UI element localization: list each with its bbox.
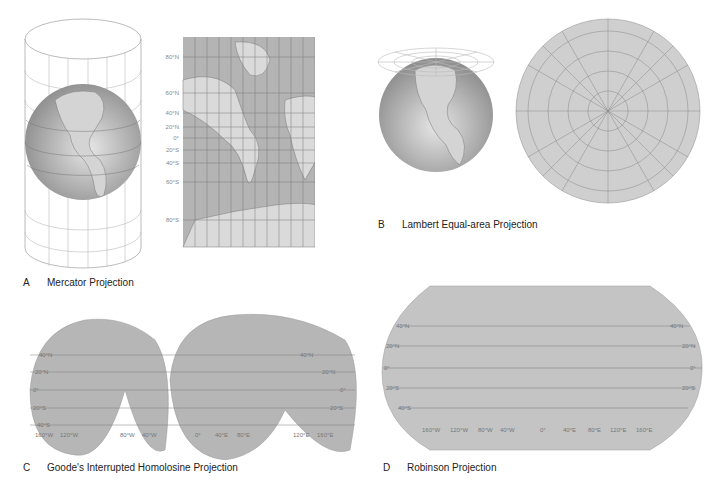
svg-text:40°N: 40°N — [39, 352, 52, 358]
svg-text:160°E: 160°E — [317, 432, 333, 438]
panel-mercator: 80°N 60°N 40°N 20°N 0° 20°S 40°S 60°S 80… — [0, 0, 360, 300]
svg-text:0°: 0° — [33, 387, 39, 393]
panel-lambert — [360, 0, 721, 240]
lat-label: 80°N — [166, 54, 179, 60]
svg-text:160°W: 160°W — [422, 427, 440, 433]
svg-text:20°N: 20°N — [322, 369, 335, 375]
caption-a: AMercator Projection — [23, 277, 134, 288]
caption-c: CGoode's Interrupted Homolosine Projecti… — [23, 462, 238, 473]
goode-map: 40°N 20°N 0° 20°S 40°S 40°N 20°N 0° 20°S… — [25, 310, 365, 460]
lat-label: 20°N — [166, 124, 179, 130]
svg-text:40°N: 40°N — [670, 323, 683, 329]
mercator-map: 80°N 60°N 40°N 20°N 0° 20°S 40°S 60°S 80… — [155, 30, 315, 280]
svg-text:80°E: 80°E — [237, 432, 250, 438]
lat-label: 20°S — [166, 147, 179, 153]
lat-label: 0° — [173, 135, 179, 141]
svg-text:0°: 0° — [540, 427, 546, 433]
svg-text:120°W: 120°W — [60, 432, 78, 438]
svg-text:40°W: 40°W — [142, 432, 157, 438]
svg-text:20°S: 20°S — [386, 385, 399, 391]
svg-text:40°E: 40°E — [563, 427, 576, 433]
svg-text:40°N: 40°N — [300, 352, 313, 358]
svg-text:0°: 0° — [195, 432, 201, 438]
svg-text:40°W: 40°W — [500, 427, 515, 433]
lat-label: 40°N — [166, 110, 179, 116]
svg-text:40°N: 40°N — [396, 323, 409, 329]
lambert-diagram — [360, 0, 721, 220]
svg-text:40°S: 40°S — [398, 405, 411, 411]
svg-text:160°W: 160°W — [35, 432, 53, 438]
svg-text:20°N: 20°N — [386, 343, 399, 349]
svg-text:160°E: 160°E — [636, 427, 652, 433]
caption-d: DRobinson Projection — [383, 462, 497, 473]
svg-text:120°E: 120°E — [293, 432, 309, 438]
svg-text:20°S: 20°S — [682, 385, 695, 391]
svg-text:20°S: 20°S — [330, 405, 343, 411]
robinson-map: 40°N 20°N 0° 20°S 40°S 40°N 20°N 0° 20°S… — [380, 282, 710, 457]
svg-text:40°E: 40°E — [215, 432, 228, 438]
svg-text:120°E: 120°E — [610, 427, 626, 433]
svg-text:120°W: 120°W — [450, 427, 468, 433]
svg-text:80°E: 80°E — [588, 427, 601, 433]
caption-b: BLambert Equal-area Projection — [378, 219, 538, 230]
lat-label: 80°S — [166, 217, 179, 223]
svg-text:80°W: 80°W — [120, 432, 135, 438]
svg-text:0°: 0° — [340, 387, 346, 393]
lat-label: 40°S — [166, 160, 179, 166]
svg-text:20°N: 20°N — [682, 343, 695, 349]
svg-text:40°S: 40°S — [37, 422, 50, 428]
svg-text:20°S: 20°S — [33, 405, 46, 411]
lat-label: 60°S — [166, 179, 179, 185]
svg-text:80°W: 80°W — [478, 427, 493, 433]
svg-text:0°: 0° — [384, 365, 390, 371]
svg-text:0°: 0° — [690, 365, 696, 371]
svg-text:20°N: 20°N — [35, 369, 48, 375]
lat-label: 60°N — [166, 90, 179, 96]
